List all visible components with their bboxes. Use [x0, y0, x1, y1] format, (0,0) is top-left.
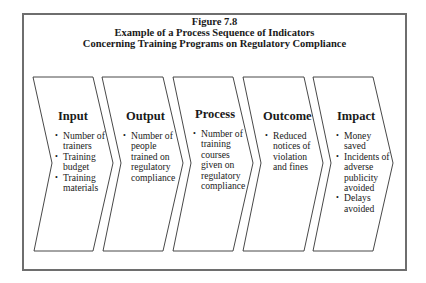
- list-item: Delays avoided: [336, 193, 390, 214]
- stage-bullet-list: Money saved Incidents of adverse publici…: [336, 131, 390, 214]
- stage-bullet-list: Reduced notices of violation and fines: [265, 131, 311, 173]
- stage-heading: Input: [58, 109, 88, 124]
- list-item: Incidents of adverse publicity avoided: [336, 152, 390, 194]
- list-item: Number of training courses given on regu…: [193, 129, 245, 191]
- stage-bullet-list: Number of people trained on regulatory c…: [123, 131, 175, 183]
- stage-process: Process Number of training courses given…: [193, 77, 273, 251]
- list-item: Training materials: [55, 173, 105, 194]
- list-item: Reduced notices of violation and fines: [265, 131, 311, 173]
- list-item: Number of trainers: [55, 131, 105, 152]
- stage-output: Output Number of people trained on regul…: [123, 77, 203, 251]
- stage-bullet-list: Number of trainers Training budget Train…: [55, 131, 105, 193]
- stage-heading: Output: [126, 109, 165, 124]
- stage-outcome: Outcome Reduced notices of violation and…: [263, 77, 343, 251]
- stage-bullet-list: Number of training courses given on regu…: [193, 129, 245, 191]
- stage-heading: Outcome: [263, 109, 312, 124]
- stage-heading: Impact: [337, 109, 375, 124]
- list-item: Money saved: [336, 131, 390, 152]
- stage-heading: Process: [195, 107, 235, 122]
- list-item: Training budget: [55, 152, 105, 173]
- list-item: Number of people trained on regulatory c…: [123, 131, 175, 183]
- stage-impact: Impact Money saved Incidents of adverse …: [335, 77, 415, 251]
